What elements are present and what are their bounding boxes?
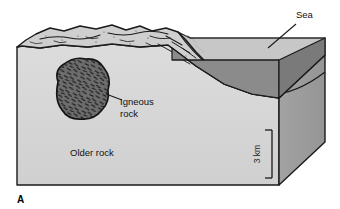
scale-bar-label: 3 km — [252, 145, 262, 163]
block-diagram-svg: Sea Igneous rock Older rock 3 km A — [0, 0, 340, 209]
igneous-rock-body — [57, 58, 110, 119]
label-igneous-rock-line2: rock — [120, 108, 138, 119]
label-sea: Sea — [296, 9, 314, 20]
block-diagram-figure: Sea Igneous rock Older rock 3 km A — [0, 0, 340, 209]
panel-label: A — [17, 194, 24, 205]
label-igneous-rock-line1: Igneous — [120, 96, 154, 107]
label-older-rock: Older rock — [70, 147, 114, 158]
